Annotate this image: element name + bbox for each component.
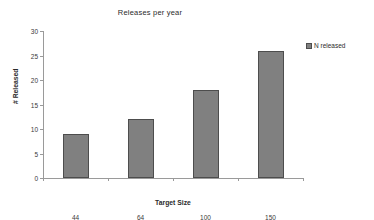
y-axis-tick: [40, 105, 43, 106]
x-axis-title: Target Size: [43, 199, 303, 206]
legend: N released: [306, 42, 345, 49]
y-axis-tick-label: 10: [31, 126, 38, 133]
bar[interactable]: [128, 119, 154, 178]
chart-title: Releases per year: [0, 8, 300, 17]
y-axis-tick: [40, 154, 43, 155]
x-axis-tick-label: 64: [137, 214, 144, 220]
y-axis-tick: [40, 56, 43, 57]
x-axis-tick-label: 100: [200, 214, 211, 220]
plot-area: 051015202530 4464100150: [43, 31, 303, 178]
y-axis-tick: [40, 80, 43, 81]
x-axis-tick-label: 44: [72, 214, 79, 220]
y-axis-tick: [40, 31, 43, 32]
x-axis-tick: [43, 178, 44, 181]
y-axis-tick-label: 30: [31, 28, 38, 35]
y-axis-tick-label: 0: [34, 175, 38, 182]
legend-swatch-n-released: [306, 43, 312, 49]
y-axis-tick-label: 20: [31, 77, 38, 84]
bar[interactable]: [63, 134, 89, 178]
y-axis-tick-label: 15: [31, 101, 38, 108]
chart-canvas: Releases per year 051015202530 446410015…: [0, 0, 374, 220]
bar[interactable]: [193, 90, 219, 178]
y-axis-tick-label: 25: [31, 52, 38, 59]
x-axis-tick: [303, 178, 304, 181]
y-axis-title: # Released: [12, 68, 19, 104]
y-axis-tick-label: 5: [34, 150, 38, 157]
y-axis-tick: [40, 129, 43, 130]
x-axis-tick: [238, 178, 239, 181]
bar[interactable]: [258, 51, 284, 178]
x-axis-tick: [173, 178, 174, 181]
legend-label-n-released: N released: [314, 42, 345, 49]
x-axis-tick-label: 150: [265, 214, 276, 220]
x-axis-tick: [108, 178, 109, 181]
